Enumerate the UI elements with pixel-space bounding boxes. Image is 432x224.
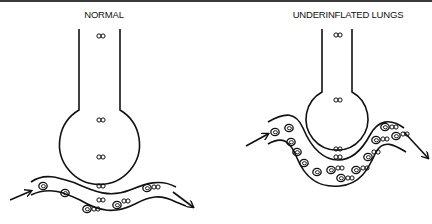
diagram-frame: NORMAL UNDERINFLATED LUNGS xyxy=(0,0,432,224)
red-blood-cells-underinflated xyxy=(271,123,409,181)
capillary-normal xyxy=(10,177,193,211)
diagram-illustration xyxy=(0,0,432,224)
o2-molecules-normal xyxy=(97,34,105,202)
o2-molecules-underinflated xyxy=(334,33,342,159)
alveolus-underinflated xyxy=(306,29,368,150)
alveolus-normal xyxy=(60,29,140,184)
